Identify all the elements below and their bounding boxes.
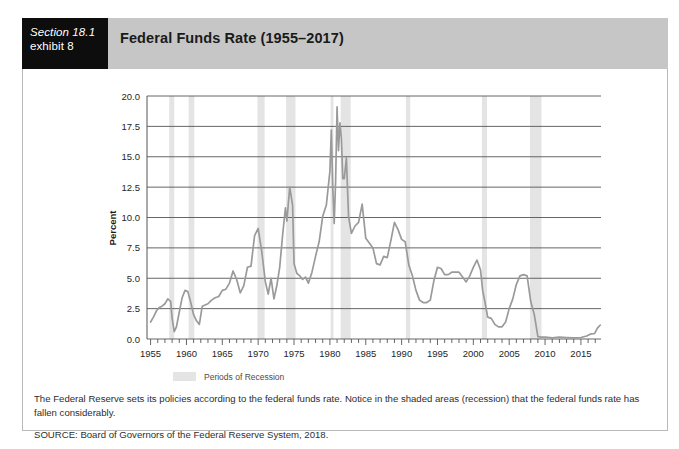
caption-source: SOURCE: Board of Governors of the Federa… <box>34 428 646 442</box>
exhibit-title: Federal Funds Rate (1955–2017) <box>120 30 344 46</box>
caption-block: The Federal Reserve sets its policies ac… <box>34 392 646 442</box>
header-band <box>22 18 668 69</box>
section-number: Section 18.1 <box>30 25 108 39</box>
caption-description: The Federal Reserve sets its policies ac… <box>34 392 646 419</box>
section-tab: Section 18.1 exhibit 8 <box>22 18 108 69</box>
exhibit-number: exhibit 8 <box>30 39 108 53</box>
exhibit-body-frame <box>22 69 668 431</box>
exhibit-figure: Section 18.1 exhibit 8 Federal Funds Rat… <box>0 0 679 449</box>
